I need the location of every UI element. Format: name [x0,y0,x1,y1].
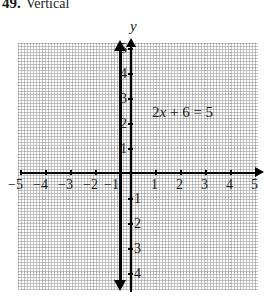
grid-line-vertical [68,43,69,290]
y-tick [128,148,133,150]
y-axis [130,46,132,292]
graphed-vertical-line [119,48,122,288]
equation-variable: x [160,104,167,120]
y-tick [128,73,133,75]
x-axis-tick-label: −5 [8,178,23,192]
y-axis-tick-label: 4 [134,267,141,281]
x-tick [20,170,22,175]
x-tick [70,170,72,175]
grid-line-horizontal [18,147,258,148]
x-axis-tick-label: 1 [151,178,158,192]
x-axis-tick-label: 3 [201,178,208,192]
x-tick [155,170,157,175]
y-axis-tick-label: 3 [120,92,127,106]
grid-line-vertical [230,43,231,290]
y-axis-tick-label: 3 [134,242,141,256]
y-tick [128,273,133,275]
y-tick [128,123,133,125]
x-tick [45,170,47,175]
grid-line-vertical [180,43,181,290]
y-axis-tick-label: 2 [134,217,141,231]
y-tick [128,48,133,50]
y-axis-tick-label: 1 [134,192,141,206]
y-tick [128,198,133,200]
x-axis-tick-label: −2 [83,178,98,192]
grid-line-vertical [93,43,94,290]
grid-line-vertical [18,43,19,290]
problem-number: 49. [2,0,21,11]
x-axis [20,172,258,174]
grid-line-vertical [155,43,156,290]
equation-right-side: 5 [206,104,214,120]
y-axis-tick-label: 1 [120,142,127,156]
x-axis-tick-label: −4 [33,178,48,192]
grid-line-horizontal [18,43,258,44]
grid-line-horizontal [18,118,258,119]
grid-line-horizontal [18,68,258,69]
graph-line-down-arrow-icon [114,280,126,291]
equation-coefficient: 2 [152,104,160,120]
x-tick [95,170,97,175]
y-tick [128,248,133,250]
equation-equals-sign: = [193,104,201,120]
x-tick [205,170,207,175]
coordinate-plane-graph: y −5 −4 −3 −2 −1 1 2 3 4 5 5 4 3 2 1 −1 … [0,18,270,296]
x-axis-tick-label: −3 [58,178,73,192]
x-axis-arrow-icon [255,167,264,177]
y-tick [128,98,133,100]
y-axis-tick-label: 4 [120,67,127,81]
y-axis-tick-label: 5 [120,42,127,56]
x-axis-tick-label: 4 [226,178,233,192]
x-axis-tick-label: 2 [176,178,183,192]
equation-plus-sign: + [170,104,178,120]
y-axis-arrow-icon [126,38,136,47]
y-axis-tick-label: 2 [120,117,127,131]
grid-line-vertical [43,43,44,290]
equation-constant: 6 [182,104,190,120]
x-axis-tick-label: −1 [104,178,119,192]
y-axis-label: y [130,18,137,35]
grid-line-horizontal [18,93,258,94]
equation-annotation: 2x + 6 = 5 [152,104,213,121]
y-tick [128,223,133,225]
grid-line-vertical [205,43,206,290]
x-tick [180,170,182,175]
problem-header: 49.Vertical [2,0,69,11]
problem-type-label: Vertical [26,0,70,11]
x-axis-tick-label: 5 [251,178,258,192]
x-tick [230,170,232,175]
